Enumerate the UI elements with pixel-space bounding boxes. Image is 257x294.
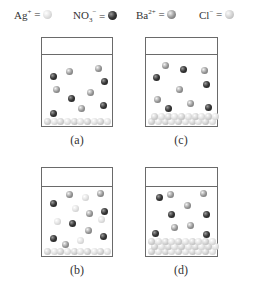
no3-particle-icon [152,230,159,237]
no3-particle-icon [203,211,210,218]
ba-particle-icon [176,86,183,93]
no3-particle-icon [180,66,187,73]
beaker-label: (d) [161,263,201,278]
no3-particle-icon [50,110,57,117]
no3-particle-icon [69,220,76,227]
no3-particle-icon [203,81,210,88]
silver-ion-icon [43,10,52,19]
legend-no3-formula: NO3− [73,8,96,24]
no3-particle-icon [203,231,210,238]
ba-particle-icon [171,224,178,231]
legend-cl: Cl− = [199,8,234,21]
precipitate-particle-icon [158,113,165,120]
ba-particle-icon [184,202,191,209]
no3-particle-icon [50,200,57,207]
ba-particle-icon [200,190,207,197]
ba-particle-icon [154,96,161,103]
ba-particle-icon [162,62,169,69]
precipitate-particle-icon [212,113,219,120]
beaker-headspace [146,38,217,55]
ag-particle-icon [82,194,89,201]
ba-particle-icon [66,191,73,198]
precipitate-particle-icon [64,118,71,125]
beaker-label: (b) [57,263,97,278]
ba-particle-icon [187,222,194,229]
beaker-headspace [146,168,217,187]
ba-particle-icon [66,68,73,75]
ba-particle-icon [167,191,174,198]
ba-particle-icon [78,105,85,112]
beaker-a [41,37,113,127]
legend-ag: Ag+ = [14,8,52,21]
beaker-label: (c) [161,133,201,148]
ba-particle-icon [201,67,208,74]
ba-particle-icon [85,227,92,234]
no3-particle-icon [50,73,57,80]
precipitate-particle-icon [64,248,71,255]
beaker-b [41,167,113,257]
precipitate-particle-icon [84,118,91,125]
legend-ba-formula: Ba2+ [136,8,156,21]
no3-particle-icon [168,211,175,218]
beaker-c [145,37,218,127]
beaker-label: (a) [57,133,97,148]
precipitate-particle-icon [104,118,111,125]
no3-particle-icon [100,102,107,109]
ba-particle-icon [86,210,93,217]
ion-legend: Ag+ = NO3− = Ba2+ = Cl− = [0,8,257,24]
precipitate-particle-icon [104,248,111,255]
ba-particle-icon [95,65,102,72]
nitrate-ion-icon [108,11,117,20]
precipitate-particle-icon [44,118,51,125]
no3-particle-icon [101,78,108,85]
precipitate-particle-icon [44,248,51,255]
precipitate-particle-icon [84,248,91,255]
legend-ba: Ba2+ = [136,8,176,21]
no3-particle-icon [156,194,163,201]
precipitate-particle-icon [155,238,162,245]
precipitate-particle-icon [148,238,155,245]
beaker-headspace [42,38,112,55]
legend-no3: NO3− = [73,8,117,24]
ag-particle-icon [54,218,61,225]
ba-particle-icon [87,89,94,96]
no3-particle-icon [101,208,108,215]
no3-particle-icon [100,233,107,240]
no3-particle-icon [165,105,172,112]
ba-particle-icon [53,86,60,93]
ba-particle-icon [187,100,194,107]
legend-ag-formula: Ag+ [14,8,31,21]
barium-ion-icon [167,10,176,19]
no3-particle-icon [68,95,75,102]
precipitate-particle-icon [182,238,189,245]
ag-particle-icon [72,205,79,212]
precipitate-particle-icon [209,238,216,245]
legend-cl-formula: Cl− [199,8,213,21]
precipitate-particle-icon [185,113,192,120]
ba-particle-icon [62,241,69,248]
beaker-headspace [42,168,112,187]
precipitate-particle-icon [151,113,158,120]
no3-particle-icon [205,104,212,111]
no3-particle-icon [153,74,160,81]
beaker-d [145,167,218,257]
ag-particle-icon [98,216,105,223]
ag-particle-icon [77,237,84,244]
no3-particle-icon [50,235,57,242]
ba-particle-icon [97,190,104,197]
chloride-ion-icon [225,10,234,19]
